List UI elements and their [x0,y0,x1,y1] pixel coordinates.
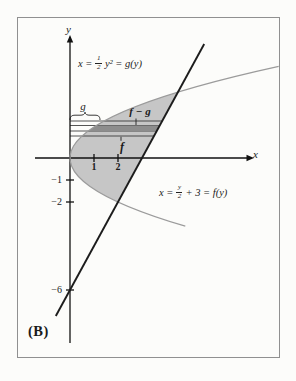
f-label: f [115,140,129,155]
x-tick-label-1: 1 [88,161,100,172]
line-equation-fraction: y 2 [176,184,182,200]
panel-label: (B) [28,323,49,340]
fraction-denominator: 2 [178,193,182,201]
y-axis-arrowhead-icon [67,35,73,43]
parabola-equation-label: x = 1 2 y² = g(y) [78,55,142,71]
line-equation-label: x = y 2 + 3 = f(y) [159,184,227,200]
y-tick-label-neg1: −1 [42,174,62,185]
line-equation-pre: x = [159,187,173,198]
line-equation-post: + 3 = f(y) [185,187,227,198]
figure-border [18,18,280,358]
parabola-equation-fraction: 1 2 [95,55,102,71]
figure-b-diagram: x = 1 2 y² = g(y) x = y 2 + 3 = f(y) f −… [0,0,296,381]
f-minus-g-label: f − g [124,105,156,117]
parabola-equation-pre: x = [78,58,92,69]
y-tick-label-neg6: −6 [42,284,62,295]
parabola-equation-post: y² = g(y) [105,58,142,69]
y-axis-label: y [66,23,71,35]
g-label: g [77,100,89,112]
x-axis-label: x [253,148,258,160]
f-minus-g-strip [88,126,160,132]
fraction-denominator: 2 [97,64,101,72]
g-width-brace [70,112,100,120]
y-tick-label-neg2: −2 [42,196,62,207]
line-curve-f [56,44,204,316]
x-tick-label-2: 2 [112,161,124,172]
